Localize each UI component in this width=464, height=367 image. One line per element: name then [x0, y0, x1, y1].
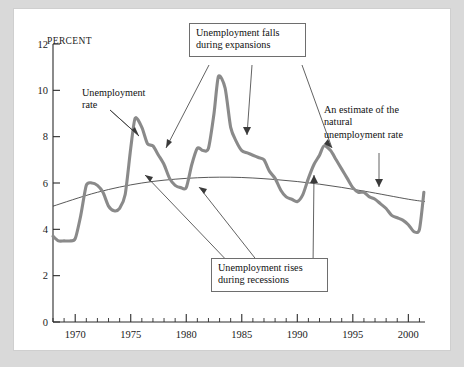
annotation-leader-lines [110, 65, 383, 267]
figure-panel: Percent 024681012 1970197519801985199019… [14, 9, 450, 350]
y-tick-label: 10 [38, 85, 49, 96]
callout-falls-during-expansions: Unemployment falls during expansions [189, 23, 306, 57]
unemployment-chart: 024681012 1970197519801985199019952000 [14, 9, 450, 350]
y-tick-label: 2 [43, 270, 48, 281]
x-tick-label: 1975 [120, 329, 141, 340]
x-tick-label: 1970 [65, 329, 86, 340]
natural-rate-line [53, 177, 425, 206]
x-tick-label: 2000 [398, 329, 419, 340]
x-axis-ticks [53, 314, 419, 322]
callout-unemployment-rate: Unemployment rate [82, 87, 145, 112]
x-axis-tick-labels: 1970197519801985199019952000 [65, 329, 419, 340]
x-tick-label: 1995 [342, 329, 363, 340]
y-tick-label: 8 [43, 131, 48, 142]
y-tick-label: 6 [43, 178, 48, 189]
y-tick-label: 0 [43, 317, 48, 328]
y-tick-label: 12 [38, 39, 49, 50]
y-axis-ticks [53, 44, 60, 322]
x-tick-label: 1985 [231, 329, 252, 340]
callout-rises-during-recessions: Unemployment rises during recessions [211, 258, 328, 292]
figure-frame: Percent 024681012 1970197519801985199019… [0, 0, 464, 367]
x-tick-label: 1990 [287, 329, 308, 340]
y-axis-tick-labels: 024681012 [38, 39, 49, 328]
y-tick-label: 4 [43, 224, 49, 235]
callout-natural-rate: An estimate of the natural unemployment … [324, 104, 439, 141]
x-tick-label: 1980 [176, 329, 197, 340]
